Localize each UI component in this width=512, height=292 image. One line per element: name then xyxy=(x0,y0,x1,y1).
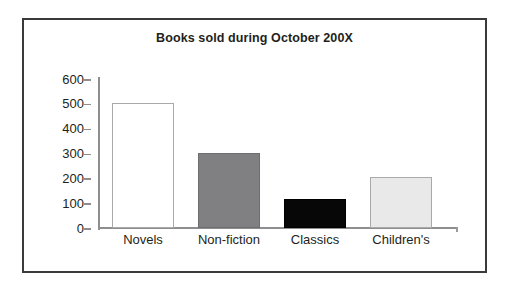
bar-novels xyxy=(112,103,174,228)
x-axis-category-labels: NovelsNon-fictionClassicsChildren's xyxy=(98,233,458,255)
y-axis-tick xyxy=(84,79,91,81)
y-axis-tick-label: 600 xyxy=(38,73,84,86)
y-axis-tick-label: 300 xyxy=(38,147,84,160)
chart-title: Books sold during October 200X xyxy=(22,31,487,45)
y-axis-tick xyxy=(84,129,91,131)
plot-area xyxy=(98,79,458,228)
y-axis-tick xyxy=(84,228,91,230)
y-axis-tick-label: 500 xyxy=(38,97,84,110)
bar-classics xyxy=(284,199,346,228)
y-axis-tick-label: 100 xyxy=(38,197,84,210)
y-axis-tick-label: 0 xyxy=(38,222,84,235)
y-axis-tick-labels: 0100200300400500600 xyxy=(38,79,84,228)
bar-children-s xyxy=(370,177,432,228)
figure: Books sold during October 200X 010020030… xyxy=(0,0,512,292)
y-axis-tick-label: 200 xyxy=(38,172,84,185)
x-axis-label-classics: Classics xyxy=(265,233,365,247)
x-axis-label-non-fiction: Non-fiction xyxy=(179,233,279,247)
x-axis-label-novels: Novels xyxy=(93,233,193,247)
y-axis-tick-label: 400 xyxy=(38,122,84,135)
y-axis-tick xyxy=(84,154,91,156)
y-axis-tick xyxy=(84,203,91,205)
y-axis-tick xyxy=(84,104,91,106)
x-axis-label-children-s: Children's xyxy=(351,233,451,247)
bar-non-fiction xyxy=(198,153,260,228)
y-axis-tick xyxy=(84,178,91,180)
